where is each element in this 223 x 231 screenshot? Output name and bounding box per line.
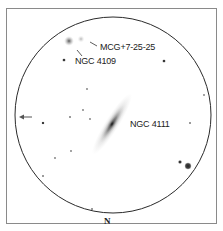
- star: [42, 175, 44, 177]
- star: [203, 94, 205, 96]
- star: [86, 88, 88, 90]
- star: [42, 122, 45, 125]
- star: [89, 118, 91, 120]
- star-field: [42, 58, 205, 210]
- arrow-icon: [19, 115, 32, 120]
- star: [69, 116, 71, 118]
- star: [54, 157, 56, 159]
- star: [82, 109, 84, 111]
- label-ngc-4109: NGC 4109: [75, 56, 116, 66]
- label-mcg-7-25-25: MCG+7-25-25: [100, 42, 155, 52]
- star: [62, 58, 65, 61]
- field-of-view-chart: [0, 0, 223, 231]
- galaxy-ngc-4109: [64, 36, 74, 46]
- star: [189, 122, 191, 124]
- star: [178, 160, 182, 164]
- star: [70, 150, 72, 152]
- star: [91, 208, 93, 210]
- leader-line-mcg: [90, 42, 97, 46]
- label-ngc-4111: NGC 4111: [130, 119, 170, 129]
- star: [185, 163, 191, 169]
- north-label: N: [104, 216, 111, 226]
- galaxy-mcg-7-25-25: [78, 36, 85, 43]
- star: [162, 59, 165, 62]
